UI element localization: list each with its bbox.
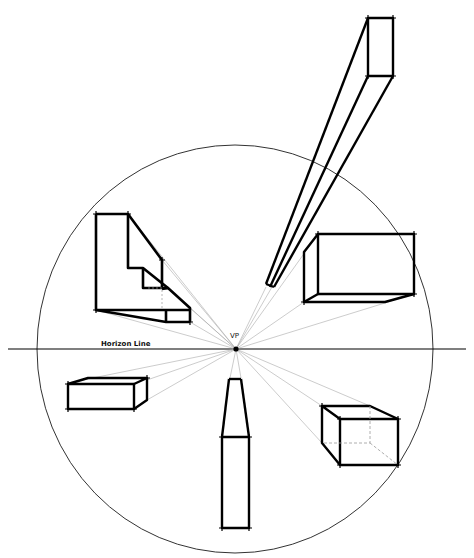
horizon-label: Horizon Line <box>101 340 151 348</box>
tall-beam <box>266 18 393 287</box>
vanishing-point-label: VP <box>230 332 239 340</box>
corner-marks <box>65 15 417 531</box>
vertical-pillar <box>222 379 249 528</box>
stair-block-hidden <box>148 288 162 308</box>
flat-box <box>68 378 147 409</box>
vanishing-point-marker <box>233 346 238 351</box>
wide-box <box>304 234 414 302</box>
perspective-diagram: VP Horizon Line <box>0 0 474 558</box>
stair-block <box>96 214 190 322</box>
